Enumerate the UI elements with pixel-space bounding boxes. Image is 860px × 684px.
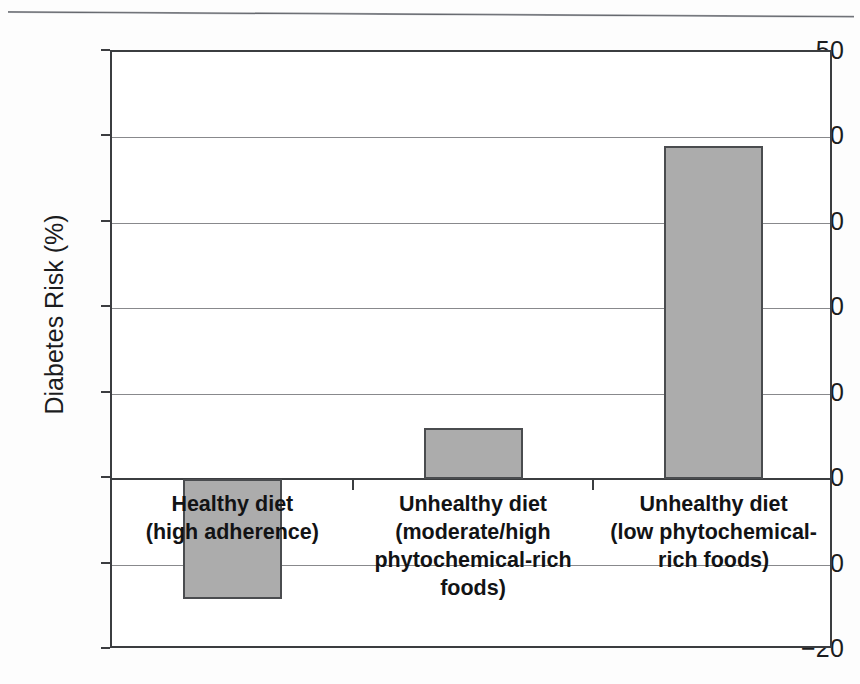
- chart-figure: Diabetes Risk (%) 50403020100−10−20 Heal…: [0, 0, 860, 684]
- y-axis-tick: [101, 647, 110, 649]
- x-axis-tick: [592, 479, 594, 490]
- plot-area: Healthy diet (high adherence)Unhealthy d…: [110, 50, 832, 648]
- y-axis-tick: [101, 476, 110, 478]
- bar: [183, 479, 282, 599]
- y-axis-tick: [101, 220, 110, 222]
- page-rule-decoration: [8, 11, 854, 18]
- bar: [424, 428, 523, 479]
- y-axis-tick: [101, 134, 110, 136]
- gridline: [112, 137, 830, 138]
- y-axis-tick: [101, 49, 110, 51]
- category-label: Unhealthy diet (low phytochemical- rich …: [597, 491, 830, 575]
- bar: [664, 146, 763, 479]
- y-axis-title: Diabetes Risk (%): [40, 105, 69, 525]
- y-axis-tick: [101, 305, 110, 307]
- category-label: Unhealthy diet (moderate/high phytochemi…: [357, 491, 590, 603]
- y-axis-tick: [101, 391, 110, 393]
- x-axis-tick: [352, 479, 354, 490]
- y-axis-tick: [101, 562, 110, 564]
